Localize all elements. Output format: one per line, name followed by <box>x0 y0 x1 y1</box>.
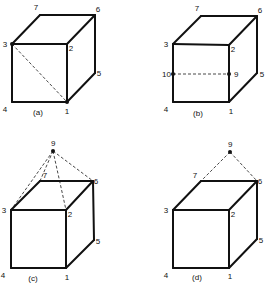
point-1 <box>65 100 69 104</box>
vertex-label-1: 1 <box>65 107 70 116</box>
dashed-line-3-1 <box>12 44 67 102</box>
cube-edge-6-2 <box>229 16 257 45</box>
vertex-label-3: 3 <box>2 206 7 215</box>
vertex-label-5: 5 <box>260 70 265 79</box>
vertex-label-3: 3 <box>164 206 169 215</box>
panel-b: 1234567910(b) <box>162 4 265 118</box>
vertex-label-6: 6 <box>258 177 263 186</box>
cube-edge-3-7 <box>12 15 40 44</box>
point-9 <box>227 72 231 76</box>
cube-edge-6-2 <box>67 15 95 44</box>
cube-edge-3-7 <box>11 181 40 210</box>
vertex-label-6: 6 <box>94 177 99 186</box>
vertex-label-7: 7 <box>193 171 198 180</box>
vertex-label-4: 4 <box>3 105 8 114</box>
vertex-label-1: 1 <box>228 272 233 281</box>
vertex-label-7: 7 <box>34 3 39 12</box>
point-3 <box>10 42 14 46</box>
vertex-label-1: 1 <box>65 273 70 282</box>
vertex-label-2: 2 <box>68 210 73 219</box>
cube-diagram: 1234567(a) 1234567910(b) 12345679(c) 123… <box>0 0 274 289</box>
vertex-label-5: 5 <box>259 236 264 245</box>
point-label-9: 9 <box>51 139 56 148</box>
cube-edge-6-5 <box>93 181 94 240</box>
point-9 <box>228 150 232 154</box>
vertex-label-6: 6 <box>96 5 101 14</box>
point-9 <box>51 149 55 153</box>
vertex-label-6: 6 <box>258 6 263 15</box>
panel-caption: (d) <box>192 273 202 282</box>
vertex-label-4: 4 <box>164 271 169 280</box>
vertex-label-3: 3 <box>164 40 169 49</box>
vertex-label-2: 2 <box>231 45 236 54</box>
panel-caption: (a) <box>33 108 43 117</box>
vertex-label-5: 5 <box>96 237 101 246</box>
cube-edge-5-1 <box>229 239 257 268</box>
cube-edge-3-7 <box>173 181 201 210</box>
vertex-label-3: 3 <box>3 40 8 49</box>
vertex-label-5: 5 <box>97 69 102 78</box>
point-label-9: 9 <box>234 70 239 79</box>
point-10 <box>171 72 175 76</box>
vertex-label-7: 7 <box>43 171 48 180</box>
panel-a: 1234567(a) <box>3 3 102 117</box>
dashed-line-9-7 <box>201 152 230 181</box>
cube-edge-3-7 <box>173 16 201 44</box>
vertex-label-2: 2 <box>231 210 236 219</box>
vertex-label-4: 4 <box>164 105 169 114</box>
point-label-10: 10 <box>162 70 171 79</box>
panel-caption: (c) <box>28 274 38 283</box>
vertex-label-4: 4 <box>1 271 6 280</box>
cube-edge-6-2 <box>229 181 257 210</box>
point-label-9: 9 <box>228 140 233 149</box>
cube-edge-5-1 <box>66 240 94 268</box>
cube-edge-5-1 <box>67 73 95 102</box>
vertex-label-1: 1 <box>229 107 234 116</box>
panel-d: 12345679(d) <box>164 140 264 282</box>
cube-edge-3-2 <box>173 44 229 45</box>
panel-c: 12345679(c) <box>1 139 101 283</box>
vertex-label-2: 2 <box>69 44 74 53</box>
vertex-label-7: 7 <box>195 4 200 13</box>
dashed-line-9-6 <box>230 152 257 181</box>
cube-edge-6-2 <box>66 181 93 210</box>
panel-caption: (b) <box>193 109 203 118</box>
